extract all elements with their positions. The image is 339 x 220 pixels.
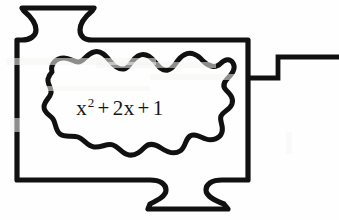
expression-second-term: 2x	[113, 96, 135, 120]
expression-third-term: 1	[153, 96, 164, 120]
expression-operator-two: +	[135, 96, 153, 120]
expression-base: x	[76, 96, 87, 120]
expression-exponent: 2	[87, 95, 94, 110]
figure-container: x2+2x+1	[0, 0, 339, 220]
right-step-connector	[248, 57, 339, 78]
polynomial-expression: x2+2x+1	[0, 96, 240, 121]
expression-operator-one: +	[95, 96, 113, 120]
